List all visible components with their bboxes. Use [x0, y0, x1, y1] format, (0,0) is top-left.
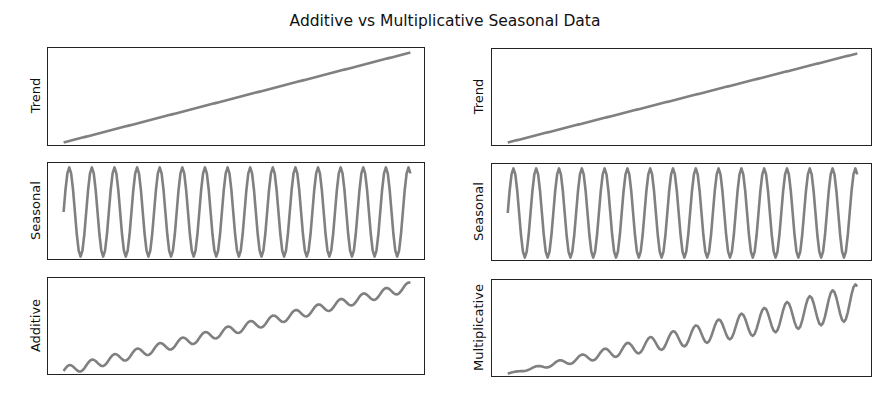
ylabel-multiplicative: Multiplicative [471, 268, 486, 388]
ylabel-trend-right: Trend [471, 37, 486, 157]
multiplicative-line [492, 280, 873, 378]
ylabel-additive: Additive [28, 266, 43, 386]
trend-line-right [492, 49, 873, 147]
ylabel-seasonal-left: Seasonal [28, 151, 43, 271]
chart-title: Additive vs Multiplicative Seasonal Data [0, 12, 890, 30]
seasonal-panel-right [491, 163, 872, 261]
seasonal-line-left [48, 163, 426, 261]
ylabel-seasonal-right: Seasonal [471, 152, 486, 272]
ylabel-trend-left: Trend [28, 36, 43, 156]
additive-panel [47, 277, 425, 375]
trend-panel-right [491, 48, 872, 146]
trend-panel-left [47, 47, 425, 146]
trend-line-left [48, 48, 426, 147]
seasonal-panel-left [47, 162, 425, 260]
seasonal-line-right [492, 164, 873, 262]
multiplicative-panel [491, 279, 872, 377]
additive-line [48, 278, 426, 376]
